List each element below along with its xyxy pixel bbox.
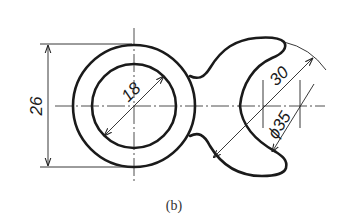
figure-caption: (b) — [166, 198, 183, 214]
dimension-label-18: 18 — [118, 78, 145, 105]
technical-drawing: 26 18 30 ϕ35 (b) — [0, 0, 348, 220]
dimension-outer-diameter: ϕ35 — [264, 84, 314, 152]
dimension-label-30: 30 — [266, 62, 293, 89]
dimension-height: 26 — [27, 44, 132, 167]
crescent-lower-outline — [190, 106, 286, 176]
dimension-label-35: ϕ35 — [264, 108, 295, 143]
dimension-label-26: 26 — [27, 96, 46, 116]
crescent-head — [190, 38, 326, 176]
